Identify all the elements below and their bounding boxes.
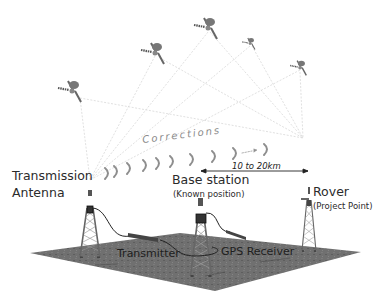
satellite-icon xyxy=(242,38,255,50)
label-gps-receiver: GPS Receiver xyxy=(221,245,294,258)
label-distance: 10 to 20km xyxy=(232,161,281,171)
satellite-icon xyxy=(58,81,81,102)
label-rover-sub: (Project Point) xyxy=(313,201,373,212)
label-transmission-antenna-line2: Antenna xyxy=(12,185,65,201)
satellite-icon xyxy=(290,61,306,76)
label-transmission-antenna-line1: Transmission xyxy=(12,168,93,184)
satellite-signal-lines xyxy=(80,32,303,180)
label-base-station-sub: (Known position) xyxy=(173,189,245,200)
label-transmitter: Transmitter xyxy=(117,247,180,260)
rtk-gps-diagram: Transmission Antenna Corrections 10 to 2… xyxy=(0,0,382,301)
label-rover: Rover xyxy=(313,184,349,200)
label-base-station: Base station xyxy=(172,172,249,188)
